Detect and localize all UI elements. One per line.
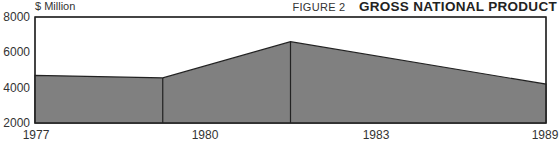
area-chart-plot [0, 0, 559, 166]
